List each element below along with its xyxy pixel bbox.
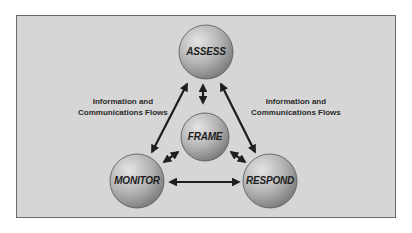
flow-annotation-right: Information and Communications Flows [251, 96, 341, 118]
node-label-frame: FRAME [170, 131, 240, 142]
node-label-respond: RESPOND [235, 175, 305, 186]
flow-annotation-left: Information and Communications Flows [78, 96, 168, 118]
node-label-monitor: MONITOR [102, 175, 172, 186]
diagram-graphics [0, 0, 412, 233]
flow-annotation-left-line2: Communications Flows [78, 107, 168, 118]
flow-annotation-left-line1: Information and [78, 96, 168, 107]
flow-annotation-right-line2: Communications Flows [251, 107, 341, 118]
flow-annotation-right-line1: Information and [251, 96, 341, 107]
arrow-frame-monitor [164, 152, 178, 162]
arrow-frame-respond [231, 152, 245, 162]
node-label-assess: ASSESS [171, 46, 241, 57]
